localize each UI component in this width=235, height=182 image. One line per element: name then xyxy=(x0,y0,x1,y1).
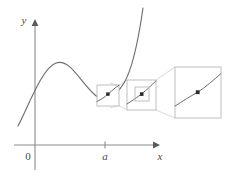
zoom-box-1 xyxy=(97,85,119,106)
origin-label: 0 xyxy=(25,150,31,162)
zoom-box-1-point xyxy=(106,92,109,95)
figure-root: y x 0 a xyxy=(0,0,235,182)
zoom-box-3-point xyxy=(196,90,200,94)
x-axis-arrow-icon xyxy=(153,142,160,149)
connector-1-bottom xyxy=(119,106,127,111)
connector-3-top xyxy=(156,67,175,80)
y-axis-label: y xyxy=(21,14,27,26)
zoom-box-3 xyxy=(175,67,221,118)
zoom-box-2 xyxy=(127,80,156,110)
x-axis-label: x xyxy=(157,150,163,162)
y-axis-arrow-icon xyxy=(32,19,39,26)
local-linearity-diagram: y x 0 a xyxy=(0,0,235,182)
connector-3-bottom xyxy=(156,110,175,118)
tick-label-a: a xyxy=(102,150,108,162)
zoom-box-2-point xyxy=(140,92,144,96)
